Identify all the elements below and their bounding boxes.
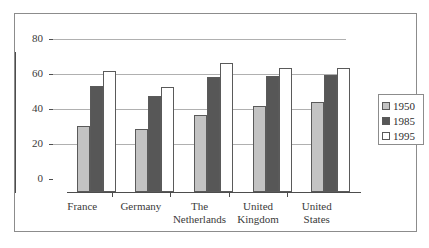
category-label-united-kingdom: UnitedKingdom — [229, 200, 288, 226]
bar-1995[interactable] — [161, 87, 174, 192]
bar-1985[interactable] — [266, 76, 279, 192]
bar-1950[interactable] — [77, 126, 90, 193]
bar-1950[interactable] — [194, 115, 207, 192]
plot-area — [67, 52, 360, 192]
bar-1995[interactable] — [279, 68, 292, 192]
gridline — [53, 39, 346, 40]
bar-1985[interactable] — [90, 86, 103, 192]
y-axis-tick-label: 0 — [13, 173, 43, 184]
legend-label: 1995 — [393, 131, 415, 142]
bar-1985[interactable] — [324, 75, 337, 192]
bar-chart-figure: 020406080 FranceGermanyTheNetherlandsUni… — [0, 0, 429, 248]
y-axis-tick-label: 40 — [13, 103, 43, 114]
category-label-line: The — [170, 200, 229, 213]
category-label-france: France — [53, 200, 112, 213]
legend-item-1985[interactable]: 1985 — [382, 114, 420, 128]
bar-1995[interactable] — [337, 68, 350, 192]
figure-border: 020406080 FranceGermanyTheNetherlandsUni… — [14, 13, 417, 232]
bar-group — [253, 52, 292, 192]
category-label-line: United — [287, 200, 346, 213]
category-label-line: United — [229, 200, 288, 213]
category-label-line: Netherlands — [170, 213, 229, 226]
legend-item-1950[interactable]: 1950 — [382, 99, 420, 113]
y-axis-tick-label: 80 — [13, 33, 43, 44]
category-label-line: States — [287, 213, 346, 226]
x-axis-tick-mark — [170, 193, 171, 197]
y-axis-tick-label: 20 — [13, 138, 43, 149]
legend-swatch-icon — [382, 132, 390, 140]
bar-1995[interactable] — [220, 63, 233, 193]
category-label-line: Germany — [112, 200, 171, 213]
bar-group — [77, 52, 116, 192]
legend-swatch-icon — [382, 102, 390, 110]
bar-1950[interactable] — [311, 102, 324, 192]
category-label-united-states: UnitedStates — [287, 200, 346, 226]
y-axis-tick-mark — [49, 74, 53, 75]
category-label-germany: Germany — [112, 200, 171, 213]
category-label-line: Kingdom — [229, 213, 288, 226]
bar-1950[interactable] — [253, 106, 266, 192]
category-label-the-netherlands: TheNetherlands — [170, 200, 229, 226]
category-label-line: France — [53, 200, 112, 213]
y-axis-tick-mark — [49, 109, 53, 110]
x-axis-tick-mark — [229, 193, 230, 197]
bar-group — [194, 52, 233, 192]
bar-1950[interactable] — [135, 129, 148, 192]
x-axis-tick-mark — [287, 193, 288, 197]
y-axis-tick-mark — [49, 144, 53, 145]
legend-label: 1950 — [393, 101, 415, 112]
bar-1995[interactable] — [103, 71, 116, 192]
x-axis-tick-mark — [112, 193, 113, 197]
y-axis-tick-mark — [49, 179, 53, 180]
bar-1985[interactable] — [207, 77, 220, 193]
legend-swatch-icon — [382, 117, 390, 125]
bar-group — [311, 52, 350, 192]
y-axis-tick-mark — [49, 39, 53, 40]
bar-group — [135, 52, 174, 192]
legend-item-1995[interactable]: 1995 — [382, 129, 420, 143]
y-axis-tick-label: 60 — [13, 68, 43, 79]
bar-1985[interactable] — [148, 96, 161, 192]
legend-label: 1985 — [393, 116, 415, 127]
chart-legend: 195019851995 — [378, 94, 424, 145]
